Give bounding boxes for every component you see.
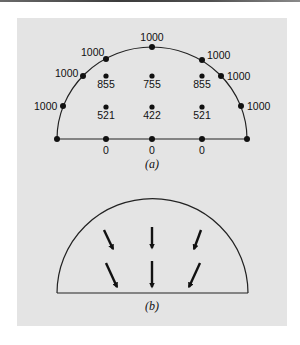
boundary-node (54, 136, 60, 142)
interior-value-label: 521 (193, 109, 211, 121)
flux-arrow-icon (106, 263, 117, 287)
boundary-value-label: 1000 (207, 49, 231, 61)
boundary-node (199, 57, 205, 63)
base-value-label: 0 (149, 144, 155, 156)
flux-arrow-icon (194, 230, 201, 249)
interior-value-label: 855 (193, 78, 211, 90)
boundary-node (238, 103, 244, 109)
boundary-node (218, 73, 224, 79)
flux-arrow-icon (189, 263, 200, 287)
boundary-value-label: 1000 (140, 31, 164, 43)
base-value-label: 0 (103, 144, 109, 156)
base-node (199, 136, 205, 142)
panel-b: (b) (57, 199, 248, 313)
boundary-node (149, 44, 155, 50)
base-node (149, 136, 155, 142)
figure-canvas: 1000100010001000100010001000855755855521… (0, 0, 300, 345)
interior-value-label: 855 (97, 78, 115, 90)
interior-value-label: 422 (143, 109, 161, 121)
interior-value-label: 521 (97, 109, 115, 121)
caption-b: (b) (145, 299, 159, 313)
boundary-value-label: 1000 (34, 100, 58, 112)
panel-a: 1000100010001000100010001000855755855521… (34, 31, 271, 171)
base-value-label: 0 (199, 144, 205, 156)
flux-arrow-icon (104, 230, 113, 249)
flux-arrows (104, 227, 201, 287)
boundary-node (244, 136, 250, 142)
boundary-value-label: 1000 (227, 70, 251, 82)
boundary-value-label: 1000 (81, 46, 105, 58)
interior-value-label: 755 (143, 78, 161, 90)
boundary-value-label: 1000 (55, 67, 79, 79)
boundary-node (80, 73, 86, 79)
boundary-value-label: 1000 (247, 100, 271, 112)
boundary-node (60, 103, 66, 109)
caption-a: (a) (145, 157, 159, 171)
base-node (103, 136, 109, 142)
